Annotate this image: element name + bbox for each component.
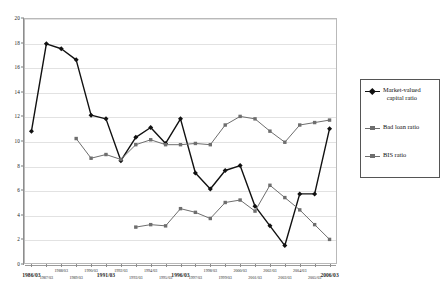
x-axis-tick-label: 1986/03 [22,272,40,278]
legend-label: Market-valuedcapital ratio [383,86,421,101]
legend-item[interactable]: Market-valuedcapital ratio [365,86,421,101]
x-axis-tick-label: 1998/03 [204,268,217,273]
x-axis-tick-mark [166,264,167,267]
x-axis-tick-label: 1996/03 [171,272,189,278]
data-point [89,157,92,160]
y-axis-tick-label: 14 [15,89,20,95]
data-point [238,115,241,118]
y-axis-tick-label: 10 [15,138,20,144]
legend-item[interactable]: BIS ratio [365,151,406,161]
x-axis-tick-mark [121,264,122,267]
x-axis-tick-mark [270,264,271,267]
x-axis-tick-label: 2003/03 [278,275,291,280]
x-axis-tick-mark [225,264,226,267]
x-axis-tick-mark [76,264,77,267]
y-axis-tick-label: 0 [17,261,20,267]
x-axis-tick-mark [210,264,211,267]
data-point [298,208,301,211]
x-axis-tick-label: 2006/03 [320,272,338,278]
data-point [164,143,167,146]
x-axis-tick-label: 2002/03 [263,268,276,273]
legend-label: Bad loan ratio [383,123,419,131]
x-axis-tick-mark [136,264,137,267]
data-point [89,113,94,118]
x-axis-tick-label: 2005/03 [308,275,321,280]
data-point [313,121,316,124]
y-axis: 02468101214161820 [0,18,24,264]
data-point [179,143,182,146]
data-point [179,207,182,210]
data-point [253,209,256,212]
y-axis-tick-label: 8 [17,163,20,169]
x-axis-tick-mark [31,264,32,267]
data-point [327,126,332,131]
y-axis-tick-label: 18 [15,40,20,46]
data-point [74,137,77,140]
data-point [164,224,167,227]
chart-legend: Market-valuedcapital ratioBad loan ratio… [360,79,440,178]
legend-label: BIS ratio [383,151,406,159]
data-point [268,129,271,132]
chart-root: 02468101214161820 1986/031987/031988/031… [0,0,443,302]
x-axis-tick-mark [315,264,316,267]
data-point [149,138,152,141]
data-point [149,223,152,226]
y-axis-tick-label: 12 [15,113,20,119]
data-point [119,158,122,161]
data-point [238,163,243,168]
x-axis-tick-label: 1990/03 [84,268,97,273]
data-point [283,196,286,199]
x-axis-tick-label: 1988/03 [55,268,68,273]
legend-marker-icon [365,124,380,133]
data-point [238,198,241,201]
legend-item[interactable]: Bad loan ratio [365,123,419,133]
x-axis: 1986/031987/031988/031989/031990/031991/… [24,264,337,302]
data-point [194,211,197,214]
data-point [134,225,137,228]
x-axis-tick-label: 2004/03 [293,268,306,273]
x-axis-tick-mark [61,264,62,267]
x-axis-tick-mark [106,264,107,267]
x-axis-tick-label: 2000/03 [233,268,246,273]
data-point [224,201,227,204]
data-point [134,143,137,146]
data-point [313,223,316,226]
data-point [194,142,197,145]
x-axis-tick-mark [46,264,47,267]
y-axis-tick-label: 4 [17,212,20,218]
y-axis-tick-label: 6 [17,187,20,193]
x-axis-tick-mark [255,264,256,267]
data-point [103,116,108,121]
series-2 [134,184,331,242]
data-point [328,118,331,121]
data-point [268,184,271,187]
data-point [312,191,317,196]
data-point [29,129,34,134]
x-axis-tick-mark [181,264,182,267]
x-axis-tick-mark [151,264,152,267]
x-axis-tick-label: 1994/03 [144,268,157,273]
x-axis-tick-label: 1993/03 [129,275,142,280]
y-axis-tick-label: 16 [15,64,20,70]
x-axis-tick-label: 2001/03 [248,275,261,280]
x-axis-tick-mark [91,264,92,267]
x-axis-tick-label: 1999/03 [218,275,231,280]
data-point [209,217,212,220]
data-point [44,41,49,46]
data-point [283,141,286,144]
x-axis-tick-label: 1991/03 [97,272,115,278]
x-axis-tick-label: 1997/03 [189,275,202,280]
y-axis-tick-label: 2 [17,236,20,242]
x-axis-tick-mark [240,264,241,267]
data-point [209,143,212,146]
data-point [104,153,107,156]
x-axis-tick-mark [285,264,286,267]
series-line [76,116,329,159]
legend-label-line2: capital ratio [383,94,421,102]
data-point [298,123,301,126]
series-layer [24,18,337,264]
x-axis-tick-mark [195,264,196,267]
x-axis-tick-mark [300,264,301,267]
data-point [297,191,302,196]
x-axis-tick-mark [330,264,331,267]
